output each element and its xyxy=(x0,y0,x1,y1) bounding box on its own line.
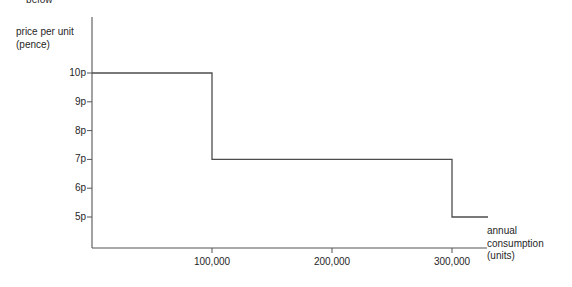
plot-area xyxy=(0,0,572,287)
step-series xyxy=(92,73,488,217)
axes xyxy=(92,17,487,248)
step-line xyxy=(92,73,488,217)
step-chart: below price per unit (pence) annual cons… xyxy=(0,0,572,287)
tick-marks xyxy=(87,73,452,253)
